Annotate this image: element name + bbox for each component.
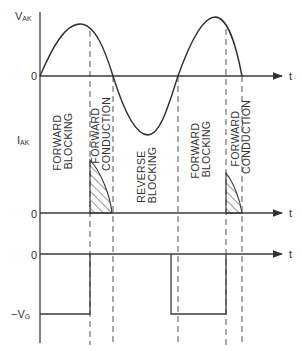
- conduction-current-pulse-2: [226, 173, 242, 213]
- vak-t-label: t: [289, 70, 292, 82]
- gate-t-label: t: [289, 248, 292, 260]
- gate-panel: 0 t −VG: [11, 248, 292, 320]
- gate-pulse-1: [40, 254, 90, 314]
- gate-negative-level-label: −VG: [11, 308, 30, 320]
- thyristor-waveform-diagram: VAK 0 t IAK 0 t FORWARD BLOCKING FORWARD…: [0, 0, 302, 351]
- iak-axis-label: IAK: [17, 134, 30, 146]
- iak-t-label: t: [289, 207, 292, 219]
- region-label-forward-blocking-2: FORWARD BLOCKING: [189, 120, 212, 179]
- vak-axis-label: VAK: [15, 10, 32, 22]
- iak-zero-label: 0: [31, 208, 37, 220]
- vak-zero-label: 0: [31, 70, 37, 82]
- gate-pulse-2: [171, 254, 226, 314]
- region-labels: FORWARD BLOCKING FORWARD CONDUCTION REVE…: [51, 97, 252, 203]
- region-label-forward-conduction-1: FORWARD CONDUCTION: [89, 97, 112, 171]
- region-label-reverse-blocking: REVERSE BLOCKING: [135, 147, 158, 204]
- region-label-forward-conduction-2: FORWARD CONDUCTION: [229, 100, 252, 174]
- region-label-forward-blocking-1: FORWARD BLOCKING: [51, 112, 74, 171]
- gate-zero-label: 0: [31, 249, 37, 261]
